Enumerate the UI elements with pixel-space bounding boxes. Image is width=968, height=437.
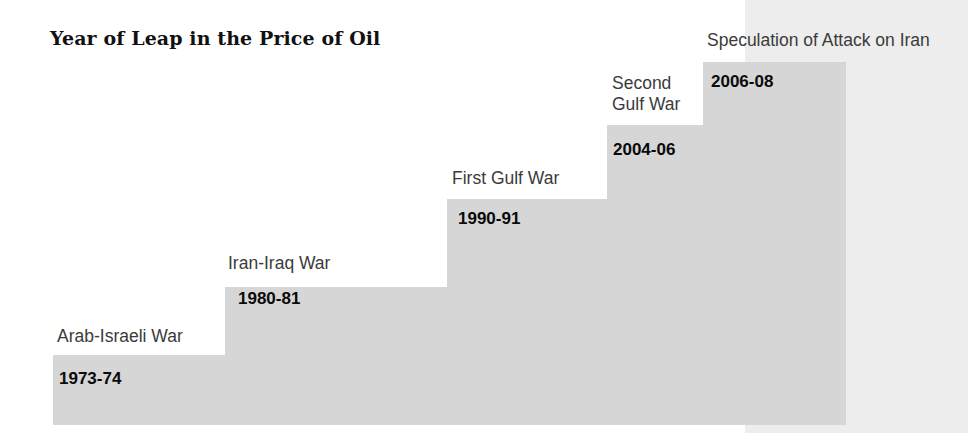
year-label-1973-74: 1973-74 <box>59 369 121 389</box>
year-label-1980-81: 1980-81 <box>238 289 300 309</box>
event-label-1980-81: Iran-Iraq War <box>228 253 330 274</box>
event-label-1973-74: Arab-Israeli War <box>57 326 183 347</box>
step-bar-1990-91 <box>447 199 607 425</box>
year-label-1990-91: 1990-91 <box>458 209 520 229</box>
year-label-2004-06: 2004-06 <box>613 140 675 160</box>
event-label-2006-08: Speculation of Attack on Iran <box>707 30 930 51</box>
event-label-1990-91: First Gulf War <box>452 168 559 189</box>
step-bar-2006-08 <box>703 62 846 425</box>
step-bar-2004-06 <box>607 125 703 425</box>
year-label-2006-08: 2006-08 <box>711 72 773 92</box>
step-bar-1973-74 <box>53 355 225 425</box>
chart-canvas: Year of Leap in the Price of Oil Arab-Is… <box>0 0 968 437</box>
event-label-2004-06: Second Gulf War <box>612 73 680 115</box>
page-title: Year of Leap in the Price of Oil <box>50 27 380 49</box>
